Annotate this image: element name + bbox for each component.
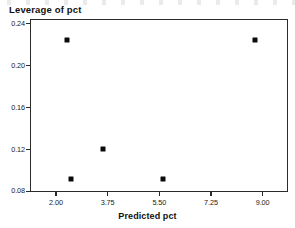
x-axis-tick-mark — [262, 192, 263, 196]
y-axis-tick-mark — [26, 23, 30, 24]
y-axis-tick-label: 0.08 — [11, 186, 25, 195]
y-axis-tick-mark — [26, 149, 30, 150]
x-axis-tick-label: 9.00 — [256, 198, 270, 207]
x-axis-tick-mark — [210, 192, 211, 196]
x-axis-tick-mark — [107, 192, 108, 196]
data-point — [160, 176, 165, 181]
y-axis-tick-label: 0.12 — [11, 145, 25, 154]
plot-area — [30, 19, 288, 192]
x-axis-tick-label: 7.25 — [204, 198, 218, 207]
x-axis-tick-label: 2.00 — [49, 198, 63, 207]
y-axis-tick-label: 0.20 — [11, 61, 25, 70]
data-point — [100, 146, 105, 151]
x-axis-tick-label: 3.75 — [101, 198, 115, 207]
y-axis-tick-mark — [26, 65, 30, 66]
y-axis-tick-label: 0.16 — [11, 103, 25, 112]
x-axis-tick-mark — [55, 192, 56, 196]
scatter-points-layer — [31, 20, 287, 191]
chart-title: Leverage of pct — [9, 4, 81, 15]
x-axis-tick-mark — [159, 192, 160, 196]
data-point — [253, 37, 258, 42]
x-axis-tick-label: 5.50 — [152, 198, 166, 207]
y-axis-tick-label: 0.24 — [11, 19, 25, 28]
y-axis-tick-mark — [26, 191, 30, 192]
x-axis-title: Predicted pct — [0, 211, 295, 221]
data-point — [69, 176, 74, 181]
y-axis-tick-mark — [26, 107, 30, 108]
data-point — [64, 37, 69, 42]
